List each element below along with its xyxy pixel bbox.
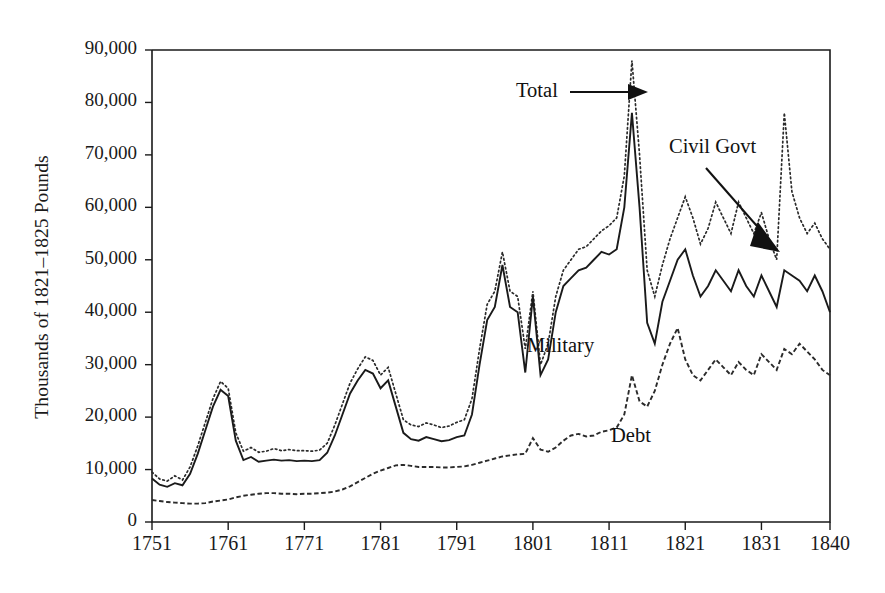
series-line-military [152, 113, 830, 487]
y-axis-tick-label: 30,000 [41, 352, 137, 374]
y-axis-tick-label: 50,000 [41, 247, 137, 269]
x-axis-tick-label: 1781 [341, 532, 421, 555]
x-axis-tick-label: 1811 [569, 532, 649, 555]
x-axis-tick-label: 1761 [188, 532, 268, 555]
y-axis-tick-label: 90,000 [41, 37, 137, 59]
series-line-debt [152, 328, 830, 504]
total-annotation-arrow [570, 84, 648, 100]
y-axis-tick-label: 70,000 [41, 142, 137, 164]
chart-figure: Thousands of 1821–1825 Pounds 010,00020,… [0, 0, 885, 593]
x-axis-tick-label: 1821 [645, 532, 725, 555]
annotation-label-military: Military [527, 334, 594, 357]
x-axis-tick-label: 1791 [417, 532, 497, 555]
x-axis-ticks [152, 522, 830, 530]
civil-govt-annotation-arrow [706, 168, 780, 252]
annotation-label-debt: Debt [611, 424, 651, 447]
x-axis-tick-label: 1771 [264, 532, 344, 555]
annotation-label-total: Total [516, 79, 558, 102]
x-axis-tick-label: 1801 [493, 532, 573, 555]
y-axis-label: Thousands of 1821–1825 Pounds [31, 77, 53, 497]
y-axis-tick-label: 20,000 [41, 404, 137, 426]
y-axis-tick-label: 10,000 [41, 457, 137, 479]
y-axis-tick-label: 80,000 [41, 89, 137, 111]
x-axis-tick-label: 1751 [112, 532, 192, 555]
y-axis-tick-label: 60,000 [41, 194, 137, 216]
series-line-total [152, 60, 830, 481]
x-axis-tick-label: 1840 [790, 532, 870, 555]
y-axis-tick-label: 0 [41, 509, 137, 531]
annotation-label-civil-govt: Civil Govt [669, 135, 756, 158]
y-axis-ticks [145, 50, 152, 522]
y-axis-tick-label: 40,000 [41, 299, 137, 321]
